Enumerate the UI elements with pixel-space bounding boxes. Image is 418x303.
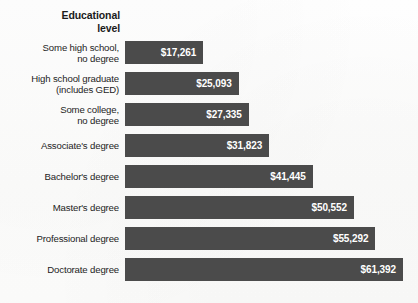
bar: $50,552 [125,196,354,219]
category-label-line: Master's degree [0,202,119,213]
category-label-line: High school graduate [0,72,119,83]
category-label-line: Professional degree [0,233,119,244]
bar: $31,823 [125,134,269,157]
bar-value-label: $17,261 [161,47,203,58]
bar: $61,392 [125,258,403,281]
bar-row: Doctorate degree$61,392 [0,258,418,281]
bar-row: Associate's degree$31,823 [0,134,418,157]
bar-row: Bachelor's degree$41,445 [0,165,418,188]
bar-value-label: $61,392 [361,264,403,275]
category-label-line: Some high school, [0,41,119,52]
bar-value-label: $50,552 [311,202,353,213]
bar-value-label: $31,823 [227,140,269,151]
bar-row: High school graduate(includes GED)$25,09… [0,72,418,95]
bar-row: Some college,no degree$27,335 [0,103,418,126]
bar: $55,292 [125,227,375,250]
bar-chart: Educational level Some high school,no de… [0,0,418,303]
bar: $25,093 [125,72,239,95]
category-label-line: Doctorate degree [0,264,119,275]
bar-value-label: $27,335 [206,109,248,120]
bar: $17,261 [125,41,203,64]
category-label: Bachelor's degree [0,171,119,182]
category-label: Doctorate degree [0,264,119,275]
category-label: Some high school,no degree [0,41,119,63]
category-label-line: no degree [0,115,119,126]
bar-value-label: $55,292 [333,233,375,244]
bar-row: Master's degree$50,552 [0,196,418,219]
category-label-line: Some college, [0,103,119,114]
category-label: Associate's degree [0,140,119,151]
category-label-line: no degree [0,53,119,64]
bar-value-label: $41,445 [270,171,312,182]
category-label-line: (includes GED) [0,84,119,95]
plot-area: Some high school,no degree$17,261High sc… [0,0,418,303]
bar-value-label: $25,093 [196,78,238,89]
category-label: High school graduate(includes GED) [0,72,119,94]
category-label-line: Bachelor's degree [0,171,119,182]
bar: $27,335 [125,103,249,126]
category-label-line: Associate's degree [0,140,119,151]
bar-row: Professional degree$55,292 [0,227,418,250]
category-label: Master's degree [0,202,119,213]
category-label: Professional degree [0,233,119,244]
bar: $41,445 [125,165,313,188]
category-label: Some college,no degree [0,103,119,125]
bar-row: Some high school,no degree$17,261 [0,41,418,64]
